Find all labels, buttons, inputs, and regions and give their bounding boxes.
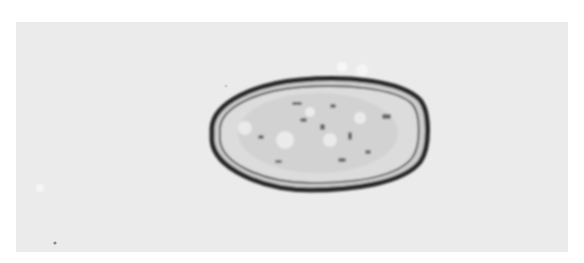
debris-particle	[36, 184, 44, 192]
debris-particle	[337, 62, 347, 72]
egg-illustration	[0, 0, 584, 263]
debris-particle	[53, 241, 56, 244]
debris-particle	[225, 85, 228, 88]
egg	[212, 79, 428, 190]
debris-particle	[356, 64, 368, 76]
